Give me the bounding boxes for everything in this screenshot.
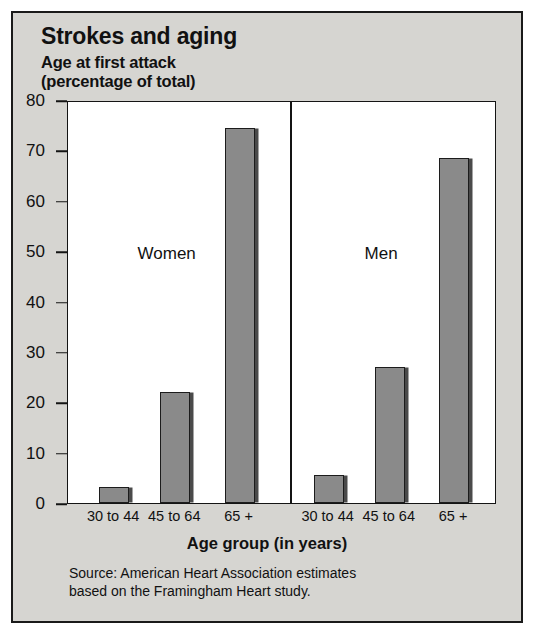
chart-subtitle: Age at first attack (percentage of total…: [41, 53, 195, 91]
y-tick-label: 10: [9, 444, 45, 464]
y-tick-mark: [56, 352, 67, 354]
x-tick-label: 65 +: [224, 508, 253, 524]
bar-men-65: [439, 158, 469, 503]
source-note: Source: American Heart Association estim…: [69, 564, 356, 600]
y-tick-mark: [56, 151, 67, 153]
y-tick-mark: [56, 251, 67, 253]
y-tick-label: 0: [9, 494, 45, 514]
chart-figure: Strokes and aging Age at first attack (p…: [11, 11, 523, 623]
bar-women-45to64: [160, 392, 190, 503]
y-tick-mark: [56, 201, 67, 203]
y-tick-mark: [56, 453, 67, 455]
group-divider: [290, 102, 292, 503]
y-tick-label: 20: [9, 393, 45, 413]
y-tick-label: 80: [9, 91, 45, 111]
y-tick-label: 40: [9, 293, 45, 313]
x-tick-label: 45 to 64: [363, 508, 415, 524]
y-tick-label: 60: [9, 192, 45, 212]
y-tick-label: 30: [9, 343, 45, 363]
bar-women-65: [225, 128, 255, 503]
group-label-men: Men: [365, 244, 398, 264]
bar-men-45to64: [375, 367, 405, 503]
plot-area: WomenMen: [67, 101, 496, 504]
x-tick-label: 30 to 44: [301, 508, 353, 524]
bar-women-30to44: [99, 487, 129, 503]
y-tick-label: 70: [9, 141, 45, 161]
x-tick-label: 45 to 64: [148, 508, 200, 524]
y-tick-mark: [56, 403, 67, 405]
chart-title: Strokes and aging: [41, 23, 237, 50]
y-tick-mark: [56, 302, 67, 304]
y-tick-label: 50: [9, 242, 45, 262]
y-tick-mark: [56, 503, 67, 505]
x-axis-label: Age group (in years): [13, 534, 521, 553]
y-tick-mark: [56, 100, 67, 102]
x-tick-label: 30 to 44: [87, 508, 139, 524]
bar-men-30to44: [314, 475, 344, 503]
x-tick-label: 65 +: [439, 508, 468, 524]
group-label-women: Women: [138, 244, 196, 264]
